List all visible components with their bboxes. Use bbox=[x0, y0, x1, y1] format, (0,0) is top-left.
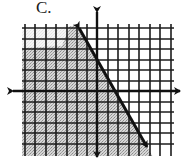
inequality-graph bbox=[0, 0, 187, 167]
